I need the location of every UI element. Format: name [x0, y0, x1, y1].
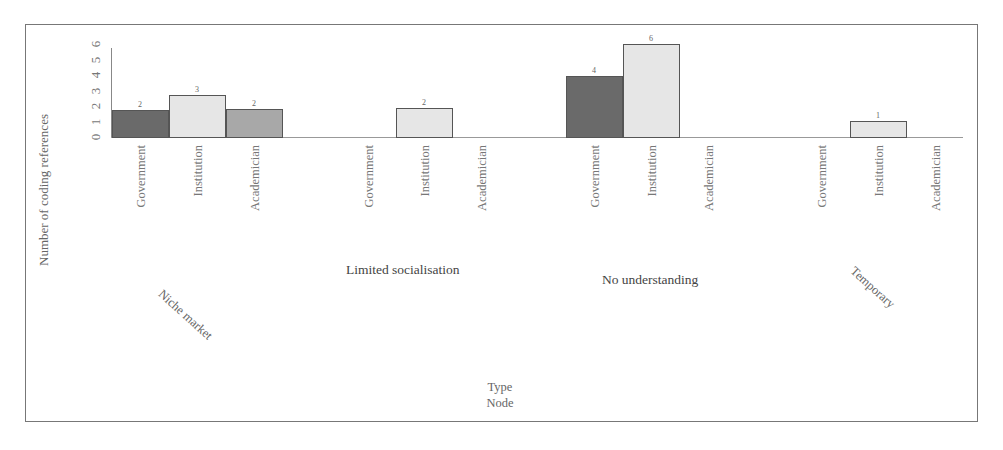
x-axis-title-node: Node [486, 396, 513, 411]
bar-nounderstanding-government [566, 76, 623, 138]
category-label-academician: Academician [475, 145, 490, 211]
y-tick-2: 2 [88, 103, 104, 110]
y-axis-title: Number of coding references [36, 114, 52, 266]
y-tick-6: 6 [88, 41, 104, 48]
bar-label-nounderstanding-government: 4 [592, 66, 596, 75]
group-label-limited-socialisation: Limited socialisation [346, 262, 460, 278]
chart-frame [25, 24, 978, 422]
category-label-government: Government [134, 145, 149, 207]
bar-label-nounderstanding-institution: 6 [649, 34, 653, 43]
group-label-no-understanding: No understanding [602, 272, 698, 288]
bar-temporary-institution [850, 121, 907, 138]
category-label-government: Government [362, 145, 377, 207]
category-label-academician: Academician [929, 145, 944, 211]
bar-limited-institution [396, 108, 453, 138]
bar-label-limited-institution: 2 [422, 98, 426, 107]
bar-label-niche-academician: 2 [252, 99, 256, 108]
bar-nounderstanding-institution [623, 44, 680, 138]
bar-label-niche-institution: 3 [195, 85, 199, 94]
category-label-institution: Institution [191, 145, 206, 196]
category-label-academician: Academician [248, 145, 263, 211]
category-label-academician: Academician [702, 145, 717, 211]
category-label-institution: Institution [872, 145, 887, 196]
y-tick-4: 4 [88, 72, 104, 79]
x-axis-title-type: Type [488, 380, 513, 395]
bar-niche-government [112, 110, 169, 138]
category-label-institution: Institution [645, 145, 660, 196]
bar-niche-institution [169, 95, 226, 138]
y-tick-3: 3 [88, 87, 104, 94]
bar-niche-academician [226, 109, 283, 138]
category-label-institution: Institution [418, 145, 433, 196]
y-tick-0: 0 [88, 134, 104, 141]
bar-label-temporary-institution: 1 [876, 111, 880, 120]
y-tick-1: 1 [88, 118, 104, 125]
category-label-government: Government [815, 145, 830, 207]
bar-label-niche-government: 2 [138, 100, 142, 109]
category-label-government: Government [588, 145, 603, 207]
y-tick-5: 5 [88, 56, 104, 63]
